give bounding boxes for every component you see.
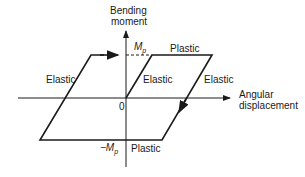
x-axis-label-1: Angular [239, 89, 273, 100]
elastic-right-label: Elastic [204, 74, 233, 85]
y-axis-label-2: moment [111, 16, 147, 27]
plastic-top-label: Plastic [170, 43, 199, 54]
mp-label: Mp [134, 41, 146, 56]
neg-mp-label: −Mp [100, 142, 118, 157]
plastic-bottom-label: Plastic [131, 143, 160, 154]
elastic-inner-label: Elastic [143, 74, 172, 85]
x-axis-label-2: displacement [239, 100, 298, 111]
y-axis-label-1: Bending [110, 5, 147, 16]
elastic-left-label: Elastic [46, 74, 75, 85]
origin-label: 0 [119, 101, 125, 112]
right-arrow [179, 99, 186, 112]
